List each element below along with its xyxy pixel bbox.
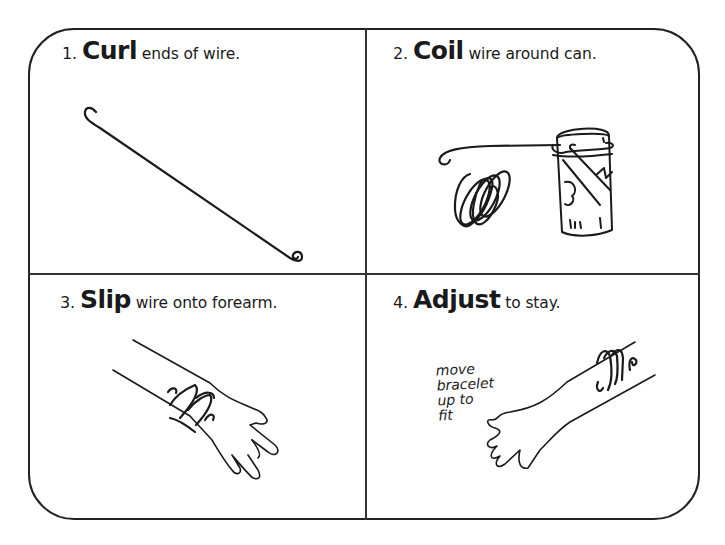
spiral-bracelet-icon (168, 385, 214, 432)
wire-coil-icon (439, 145, 560, 229)
spiral-bracelet-adjusted-icon (597, 350, 636, 391)
forearm-with-bracelet-icon (113, 340, 278, 479)
can-icon (552, 129, 613, 236)
curled-wire-icon (85, 108, 302, 261)
